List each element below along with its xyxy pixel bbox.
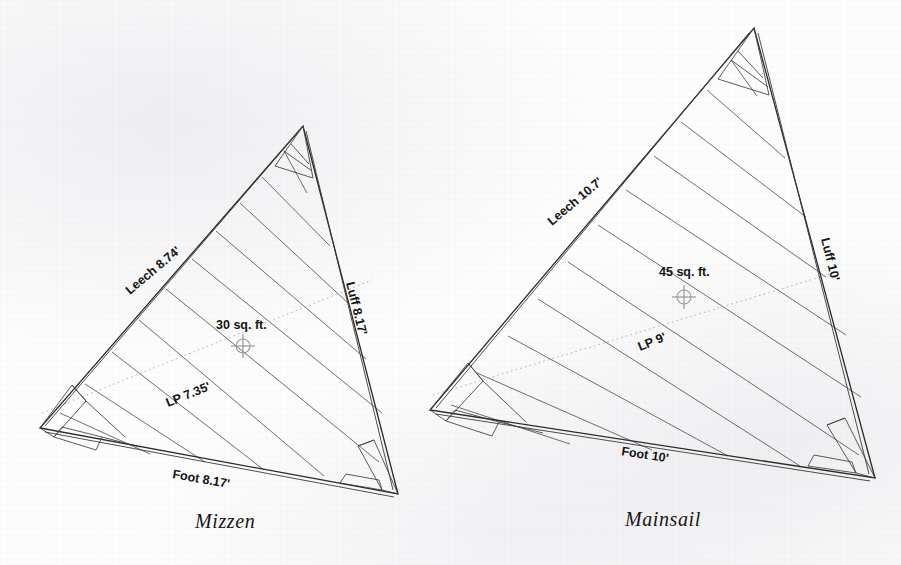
mainsail-luff-tabling — [758, 33, 869, 474]
mainsail-panel-seams — [451, 60, 861, 466]
mainsail-lp-line — [433, 271, 840, 395]
sail-mainsail: Leech 10.7' Luff 10' Foot 10' LP 9' 45 s… — [430, 28, 875, 481]
mizzen-outline — [40, 126, 398, 494]
mizzen-caption: Mizzen — [195, 510, 255, 533]
mizzen-leech-tabling — [45, 131, 299, 426]
mizzen-clew-patch — [340, 440, 398, 494]
mainsail-foot-label: Foot 10' — [621, 444, 670, 465]
mizzen-foot-label: Foot 8.17' — [171, 467, 230, 491]
sail-plan-drawing: Leech 8.74' Luff 8.17' Foot 8.17' LP 7.3… — [0, 0, 901, 565]
mainsail-area-label: 45 sq. ft. — [659, 265, 710, 279]
mainsail-lp-label: LP 9' — [636, 330, 668, 354]
mizzen-panel-seams — [60, 151, 382, 476]
mainsail-luff-label: Luff 10' — [818, 236, 842, 282]
mainsail-outline — [430, 28, 875, 478]
mainsail-leech-label: Leech 10.7' — [545, 175, 605, 229]
mizzen-leech-label: Leech 8.74' — [123, 244, 183, 298]
mainsail-foot-tabling — [436, 414, 870, 481]
mizzen-area-label: 30 sq. ft. — [216, 318, 267, 332]
sail-mizzen: Leech 8.74' Luff 8.17' Foot 8.17' LP 7.3… — [40, 126, 398, 497]
mainsail-leech-tabling — [436, 33, 749, 408]
mainsail-caption: Mainsail — [625, 508, 701, 531]
mizzen-luff-tabling — [306, 131, 393, 490]
mizzen-center-of-effort-marker — [231, 334, 255, 358]
mizzen-lp-label: LP 7.35' — [164, 379, 212, 409]
mizzen-luff-label: Luff 8.17' — [343, 280, 370, 336]
mainsail-center-of-effort-marker — [672, 285, 696, 309]
